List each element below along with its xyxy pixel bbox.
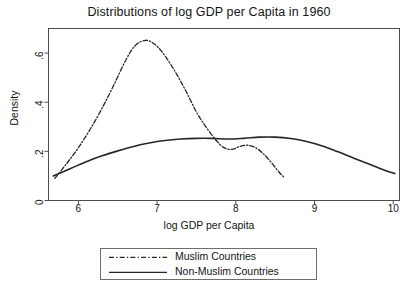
y-tick-label: .6 <box>33 52 44 74</box>
y-axis-title: Density <box>8 68 20 148</box>
x-tick-label: 7 <box>142 203 172 214</box>
x-tick-label: 8 <box>221 203 251 214</box>
legend-item-non-muslim: Non-Muslim Countries <box>101 264 316 280</box>
y-tick-label: .4 <box>33 101 44 123</box>
legend-line-sample-solid <box>109 271 167 273</box>
series-line-muslim <box>55 40 285 178</box>
x-tick-label: 10 <box>378 203 408 214</box>
x-axis-title: log GDP per Capita <box>0 219 418 231</box>
plot-frame <box>49 29 400 201</box>
y-tick-label: .2 <box>33 150 44 172</box>
legend-item-muslim: Muslim Countries <box>101 249 316 265</box>
chart-legend: Muslim Countries Non-Muslim Countries <box>100 248 317 280</box>
plot-border <box>49 29 400 201</box>
series-line-non-muslim <box>53 137 395 176</box>
legend-line-sample-dashdot <box>109 256 167 258</box>
x-tick-label: 6 <box>63 203 93 214</box>
y-axis-ticks <box>45 53 49 200</box>
legend-label-muslim: Muslim Countries <box>175 250 256 262</box>
chart-figure: Distributions of log GDP per Capita in 1… <box>0 0 418 293</box>
x-tick-label: 9 <box>300 203 330 214</box>
data-series-group <box>53 40 395 178</box>
y-tick-label: 0 <box>33 199 44 221</box>
legend-label-non-muslim: Non-Muslim Countries <box>175 265 279 277</box>
